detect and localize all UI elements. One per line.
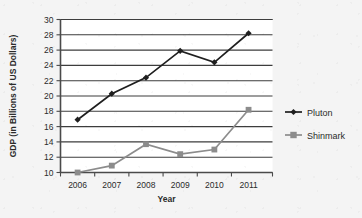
- chart-canvas: 1012141618202224262830200620072008200920…: [0, 0, 362, 218]
- data-point-marker: [75, 170, 81, 176]
- legend: PlutonShinmark: [285, 108, 346, 141]
- x-tick-label: 2010: [205, 180, 224, 190]
- data-point-marker: [290, 109, 296, 115]
- y-tick-label: 30: [44, 15, 54, 25]
- data-point-marker: [211, 147, 217, 153]
- y-tick-label: 28: [44, 30, 54, 40]
- x-axis-title: Year: [158, 194, 177, 204]
- legend-label: Shinmark: [307, 131, 346, 141]
- gdp-line-chart: 1012141618202224262830200620072008200920…: [0, 0, 362, 218]
- y-tick-label: 22: [44, 76, 54, 86]
- y-tick-label: 12: [44, 152, 54, 162]
- y-axis-title: GDP (in Billions of US Dollars): [8, 35, 18, 158]
- x-tick-label: 2007: [102, 180, 121, 190]
- y-axis-ticks: 1012141618202224262830: [44, 15, 60, 178]
- x-tick-label: 2006: [68, 180, 87, 190]
- y-tick-label: 10: [44, 168, 54, 178]
- legend-item[interactable]: Pluton: [285, 108, 333, 118]
- data-point-marker: [109, 163, 115, 169]
- data-point-marker: [246, 107, 252, 113]
- y-tick-label: 26: [44, 45, 54, 55]
- y-tick-label: 16: [44, 122, 54, 132]
- data-point-marker: [290, 132, 296, 138]
- data-point-marker: [143, 141, 149, 147]
- y-tick-label: 24: [44, 60, 54, 70]
- data-point-marker: [177, 151, 183, 157]
- x-tick-label: 2009: [171, 180, 190, 190]
- y-tick-label: 18: [44, 106, 54, 116]
- legend-item[interactable]: Shinmark: [285, 131, 346, 141]
- x-axis-ticks: 200620072008200920102011: [61, 173, 273, 190]
- x-tick-label: 2011: [239, 180, 258, 190]
- y-tick-label: 14: [44, 137, 54, 147]
- x-tick-label: 2008: [137, 180, 156, 190]
- y-tick-label: 20: [44, 91, 54, 101]
- legend-label: Pluton: [307, 108, 333, 118]
